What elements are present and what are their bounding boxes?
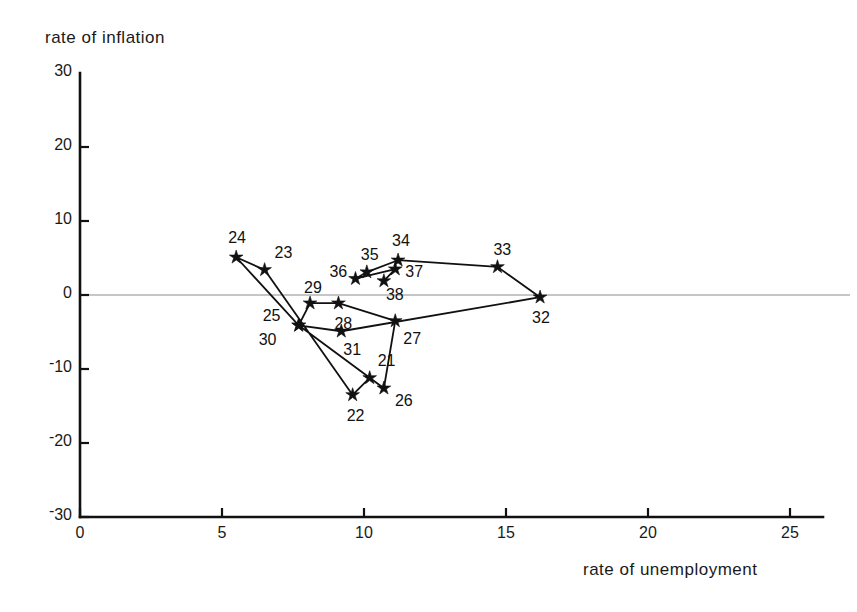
data-markers	[229, 250, 547, 401]
data-point-label: 21	[378, 352, 396, 370]
data-point-label: 33	[493, 241, 511, 259]
data-point-label: 35	[361, 246, 379, 264]
axis-ticks	[80, 147, 790, 517]
data-point-marker	[258, 263, 272, 276]
data-point-label: 28	[334, 315, 352, 333]
data-point-marker	[533, 290, 547, 303]
y-tick-label: 20	[28, 136, 72, 154]
data-point-marker	[303, 296, 317, 309]
data-point-label: 31	[343, 341, 361, 359]
y-tick-label: 10	[28, 358, 72, 376]
data-point-label: 37	[405, 263, 423, 281]
data-point-label: 29	[304, 279, 322, 297]
y-tick-label: 0	[28, 284, 72, 302]
x-tick-label: 10	[344, 524, 384, 542]
data-point-label: 22	[347, 407, 365, 425]
data-point-label: 24	[228, 229, 246, 247]
data-point-marker	[332, 296, 346, 309]
data-point-label: 25	[263, 307, 281, 325]
data-point-marker	[229, 250, 243, 263]
data-point-marker	[349, 272, 363, 285]
y-tick-label: 20	[28, 432, 72, 450]
data-point-label: 26	[395, 392, 413, 410]
y-tick-label: 30	[28, 62, 72, 80]
y-tick-label: 30	[28, 506, 72, 524]
x-tick-label: 20	[628, 524, 668, 542]
data-point-label: 36	[329, 263, 347, 281]
scatter-plot-canvas	[0, 0, 857, 612]
data-point-label: 27	[403, 330, 421, 348]
chart-figure: rate of inflation rate of unemployment 3…	[0, 0, 857, 612]
data-point-label: 34	[392, 232, 410, 250]
x-tick-label: 0	[60, 524, 100, 542]
x-tick-label: 5	[202, 524, 242, 542]
y-tick-label: 10	[28, 210, 72, 228]
data-point-label: 23	[275, 244, 293, 262]
data-point-label: 32	[532, 309, 550, 327]
data-point-marker	[377, 381, 391, 394]
x-tick-label: 25	[770, 524, 810, 542]
data-path	[236, 257, 540, 395]
x-tick-label: 15	[486, 524, 526, 542]
data-point-label: 38	[386, 286, 404, 304]
data-point-marker	[391, 253, 405, 266]
data-point-label: 30	[259, 331, 277, 349]
